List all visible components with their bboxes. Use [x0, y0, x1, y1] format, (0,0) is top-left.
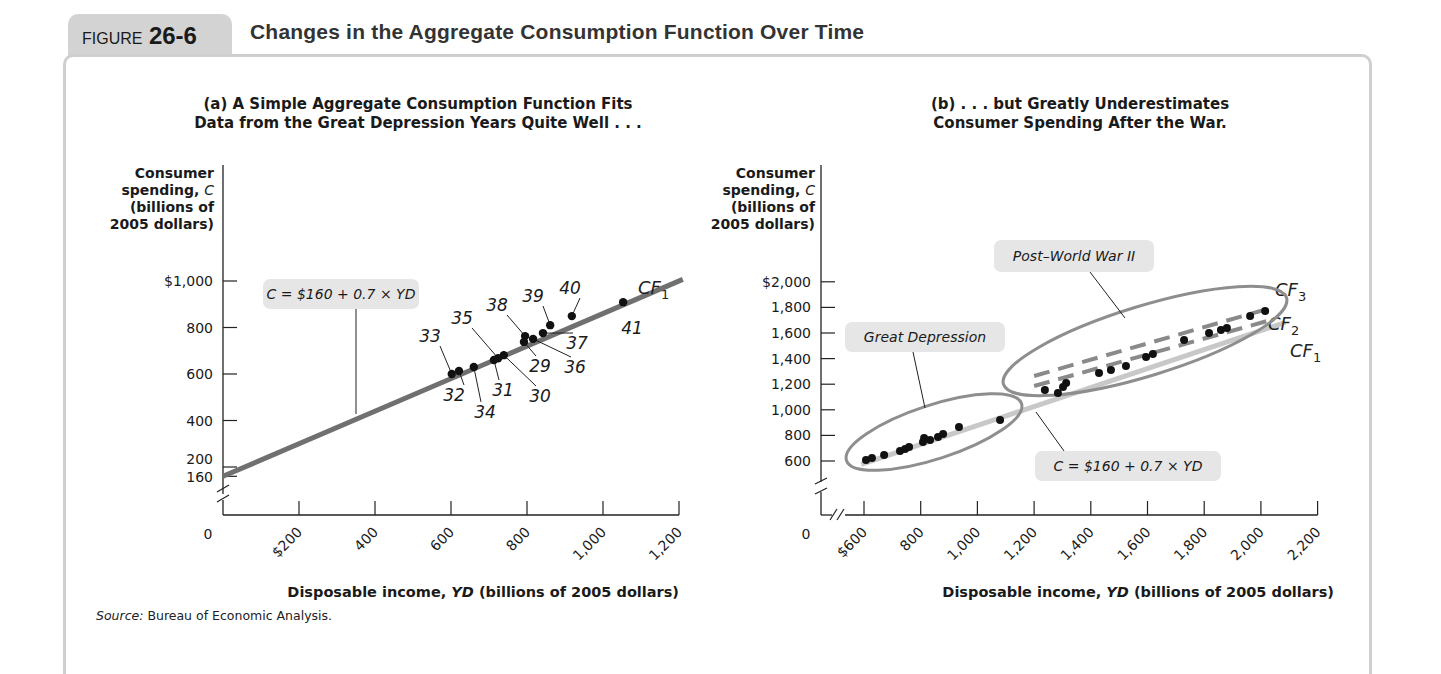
- panel-b-y-axis-title-line: Consumer: [736, 165, 815, 181]
- panel-b-great-depression-label: Great Depression: [845, 322, 1005, 352]
- panel-b-equation-leader: [1036, 412, 1064, 451]
- panel-a-point-leader: [472, 328, 498, 358]
- panel-a-equation-label-text: C = $160 + 0.7 × YD: [267, 286, 416, 302]
- panel-b-y-tick-label: 1,200: [771, 376, 811, 392]
- panel-b-postwar-point: [1261, 307, 1269, 315]
- panel-b-x-tick-label: 1,800: [1171, 524, 1211, 564]
- panel-b-gd-point: [996, 416, 1004, 424]
- panel-a-x-axis-title: Disposable income, YD (billions of 2005 …: [287, 584, 679, 600]
- panel-b-y-axis-title-line: (billions of: [731, 199, 816, 215]
- panel-a-origin-label: 0: [204, 526, 213, 542]
- panel-b-y-tick-label: 1,400: [771, 351, 811, 367]
- panel-b-postwar-point: [1062, 379, 1070, 387]
- panel-b-great-depression-ellipse: [838, 378, 1030, 486]
- panel-a-x-tick-label: 800: [503, 524, 533, 554]
- panel-a-y-tick-label: 200: [186, 451, 213, 467]
- panel-a-year-label: 32: [443, 385, 465, 405]
- panel-a-title-line1: (a) A Simple Aggregate Consumption Funct…: [203, 95, 632, 113]
- source-text: Bureau of Economic Analysis.: [147, 608, 332, 623]
- panel-b-x-tick-label: $600: [834, 524, 871, 561]
- panel-b-postwar-label: Post–World War II: [994, 240, 1154, 272]
- panel-b-gd-point: [880, 451, 888, 459]
- panel-a: (a) A Simple Aggregate Consumption Funct…: [110, 95, 685, 600]
- panel-b-y-tick-label: 600: [784, 453, 811, 469]
- panel-a-y-tick-label: 600: [186, 366, 213, 382]
- panel-b-gd-point: [955, 423, 963, 431]
- panel-b-x-axis-title: Disposable income, YD (billions of 2005 …: [942, 584, 1334, 600]
- panel-b-origin-label: 0: [802, 526, 811, 542]
- panel-b-y-tick-label: 1,000: [771, 402, 811, 418]
- panel-a-y-axis-title-line: (billions of: [130, 199, 215, 215]
- panel-a-year-label: 39: [522, 286, 544, 306]
- panel-a-y-axis-title-line: spending, C: [121, 182, 214, 198]
- panel-a-year-label: 33: [419, 326, 441, 346]
- panel-b-x-tick-label: 1,400: [1057, 524, 1097, 564]
- panel-b-postwar-point: [1180, 336, 1188, 344]
- panel-a-data-point: [521, 332, 529, 340]
- panel-b-postwar-point: [1095, 369, 1103, 377]
- panel-b-x-axis-break-mark: [837, 509, 844, 520]
- panel-a-x-tick-label: 1,200: [645, 524, 685, 564]
- panel-a-equation-label: C = $160 + 0.7 × YD: [263, 279, 419, 309]
- panel-b-great-depression-label-text: Great Depression: [864, 329, 986, 345]
- panel-b-x-tick-label: 2,200: [1284, 524, 1324, 564]
- panel-a-year-label: 29: [529, 356, 551, 376]
- panel-b-postwar-point: [1142, 353, 1150, 361]
- panel-a-year-label: 35: [451, 308, 473, 328]
- panel-a-y-tick-label: 800: [186, 320, 213, 336]
- panel-b-postwar-point: [1149, 350, 1157, 358]
- panel-b-cf1-label: CF1: [1290, 340, 1321, 365]
- panel-a-y-tick-label: 160: [186, 469, 213, 485]
- panel-a-y-tick-label: 400: [186, 413, 213, 429]
- panel-b-y-tick-label: 1,800: [771, 299, 811, 315]
- panel-a-data-point: [470, 363, 478, 371]
- panel-b-postwar-point: [1107, 366, 1115, 374]
- panel-b-postwar-label-text: Post–World War II: [1013, 248, 1135, 264]
- panel-b-y-axis-title-line: spending, C: [722, 182, 815, 198]
- panel-a-x-tick-label: $200: [269, 524, 306, 561]
- panel-b-cf2-label: CF2: [1268, 313, 1299, 338]
- panel-a-title-line2: Data from the Great Depression Years Qui…: [194, 114, 642, 132]
- panel-b-y-tick-label: 800: [784, 427, 811, 443]
- panel-a-data-point: [546, 321, 554, 329]
- panel-b-postwar-ellipse: [993, 264, 1297, 417]
- panel-b-postwar-point: [1122, 362, 1130, 370]
- panel-a-x-tick-label: 1,000: [569, 524, 609, 564]
- panel-a-data-point: [448, 370, 456, 378]
- panel-b-x-tick-label: 1,600: [1114, 524, 1154, 564]
- panel-b-title-line1: (b) . . . but Greatly Underestimates: [931, 95, 1229, 113]
- panel-b-equation-label: C = $160 + 0.7 × YD: [1035, 451, 1221, 481]
- panel-a-x-tick-label: 400: [351, 524, 381, 554]
- panel-a-y-axis-title: Consumerspending, C(billions of2005 doll…: [110, 165, 215, 232]
- panel-b-gd-point: [905, 443, 913, 451]
- panel-b-x-tick-label: 1,200: [1001, 524, 1041, 564]
- panel-b-postwar-leader: [1090, 272, 1125, 318]
- panel-a-year-label: 36: [564, 357, 586, 377]
- panel-a-data-point: [619, 298, 627, 306]
- panel-a-x-tick-label: 600: [427, 524, 457, 554]
- panel-a-year-label: 31: [492, 380, 514, 400]
- panel-b-gd-point: [868, 454, 876, 462]
- panel-b-equation-label-text: C = $160 + 0.7 × YD: [1054, 458, 1203, 474]
- source-label: Source:: [96, 608, 143, 623]
- panel-a-year-label: 30: [529, 386, 551, 406]
- panel-b-title-line2: Consumer Spending After the War.: [933, 114, 1226, 132]
- panel-b-x-tick-label: 2,000: [1227, 524, 1267, 564]
- panel-a-data-point: [568, 312, 576, 320]
- panel-b-postwar-point: [1041, 386, 1049, 394]
- panel-b: (b) . . . but Greatly UnderestimatesCons…: [711, 95, 1334, 600]
- panel-a-point-leader: [440, 346, 452, 374]
- panel-a-year-label: 40: [559, 278, 581, 298]
- panel-b-x-tick-label: 800: [897, 524, 927, 554]
- panel-a-year-label: 41: [621, 318, 643, 338]
- panel-a-year-label: 38: [486, 295, 508, 315]
- panel-b-x-tick-label: 1,000: [944, 524, 984, 564]
- panel-a-data-point: [455, 367, 463, 375]
- source-note: Source: Bureau of Economic Analysis.: [96, 608, 332, 623]
- panel-a-y-tick-label: $1,000: [164, 273, 213, 289]
- panel-a-year-label: 34: [474, 402, 496, 422]
- panel-b-y-tick-label: $2,000: [762, 274, 811, 290]
- panel-b-postwar-point: [1205, 329, 1213, 337]
- panel-b-y-axis-title: Consumerspending, C(billions of2005 doll…: [711, 165, 816, 232]
